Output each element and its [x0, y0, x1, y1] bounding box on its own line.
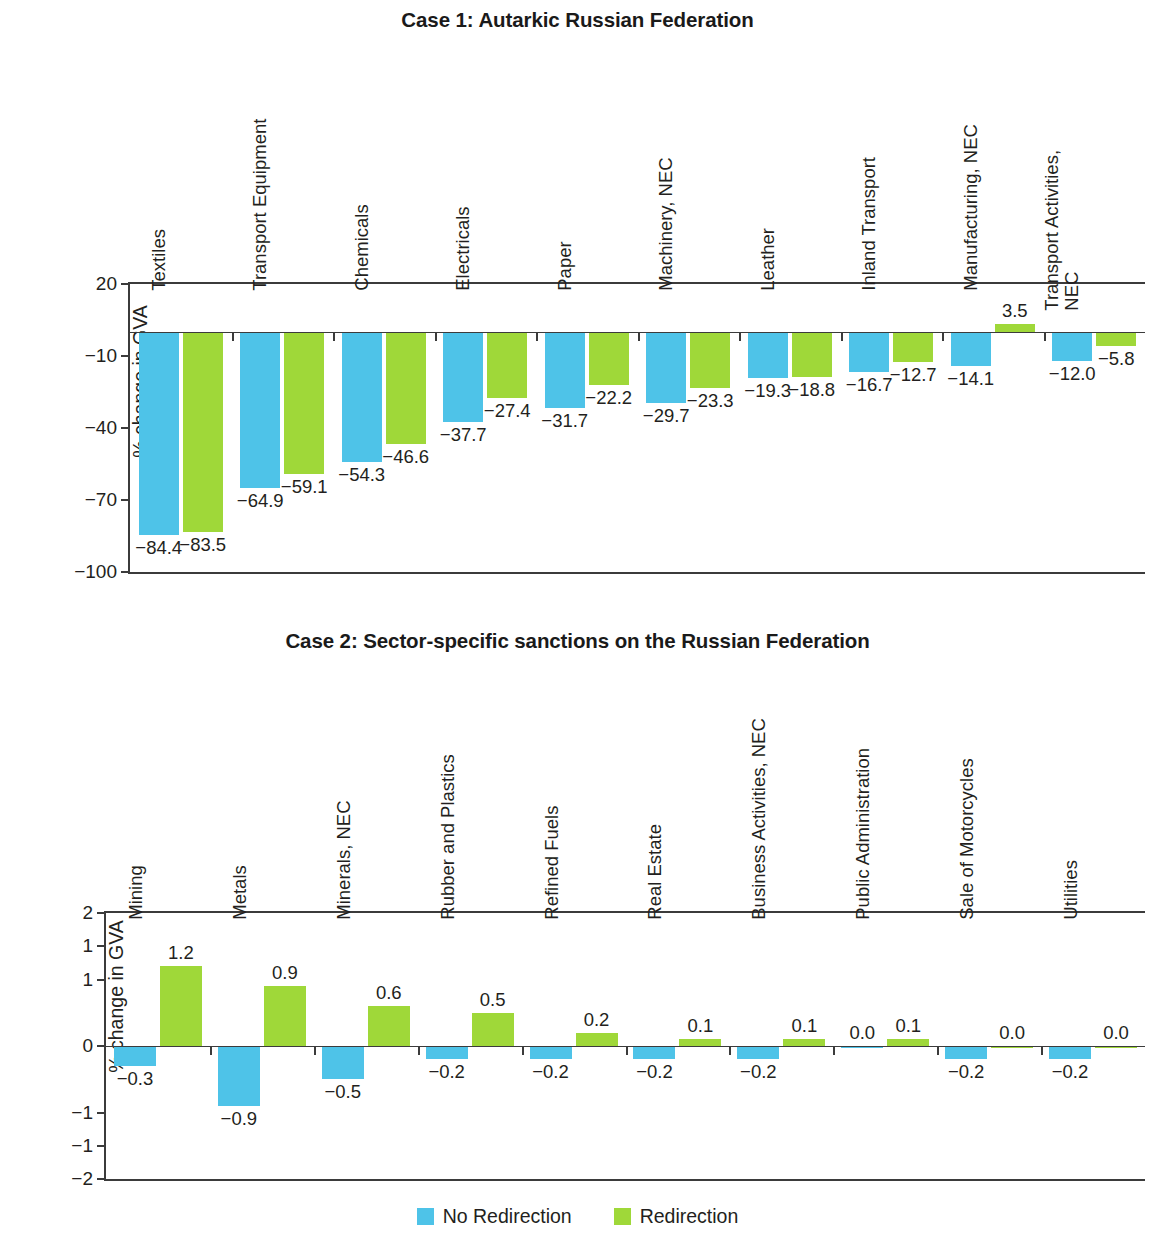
bar-value-label: −0.2 — [1052, 1061, 1089, 1083]
x-tick — [942, 332, 944, 341]
bar-no-redirection — [1049, 1046, 1091, 1059]
x-tick — [536, 332, 538, 341]
y-tick-label: 0 — [82, 1035, 106, 1057]
bar-value-label: 0.0 — [999, 1022, 1025, 1044]
bar-no-redirection — [646, 332, 686, 403]
x-tick — [626, 1046, 628, 1055]
bar-no-redirection — [849, 332, 889, 372]
bar-value-label: −5.8 — [1098, 348, 1135, 370]
bar-value-label: 1.2 — [168, 942, 194, 964]
bar-no-redirection — [737, 1046, 779, 1059]
x-tick — [1041, 1046, 1043, 1055]
x-tick — [314, 1046, 316, 1055]
x-tick — [833, 1046, 835, 1055]
x-tick — [232, 332, 234, 341]
chart-1-title: Case 1: Autarkic Russian Federation — [0, 8, 1155, 32]
bar-no-redirection — [218, 1046, 260, 1106]
category-label: Minerals, NEC — [334, 800, 355, 919]
category-label: Sale of Motorcycles — [957, 758, 978, 919]
bar-value-label: 0.1 — [895, 1015, 921, 1037]
bar-redirection — [679, 1039, 721, 1046]
legend-label-no-redirection: No Redirection — [443, 1205, 572, 1228]
bar-no-redirection — [114, 1046, 156, 1066]
bar-value-label: −54.3 — [338, 464, 385, 486]
x-tick — [333, 332, 335, 341]
y-tick-label: −100 — [74, 561, 130, 583]
category-label: Textiles — [149, 229, 170, 291]
bar-value-label: 0.9 — [272, 962, 298, 984]
bar-redirection — [893, 332, 933, 362]
bar-value-label: 0.0 — [849, 1022, 875, 1044]
bar-value-label: −64.9 — [237, 490, 284, 512]
bar-redirection — [472, 1013, 514, 1046]
bar-no-redirection — [945, 1046, 987, 1059]
bar-redirection — [576, 1033, 618, 1046]
bar-value-label: −0.5 — [324, 1081, 361, 1103]
legend-item-redirection: Redirection — [614, 1205, 739, 1228]
category-label: Leather — [758, 228, 779, 291]
chart-2-title: Case 2: Sector-specific sanctions on the… — [0, 629, 1155, 653]
x-tick — [638, 332, 640, 341]
bar-value-label: −12.7 — [890, 364, 937, 386]
bar-value-label: −0.2 — [428, 1061, 465, 1083]
legend-swatch-redirection — [614, 1208, 631, 1225]
bar-no-redirection — [748, 332, 788, 378]
y-tick-label: 1 — [82, 969, 106, 991]
bar-no-redirection — [545, 332, 585, 408]
bar-redirection — [183, 332, 223, 532]
category-label: Public Administration — [854, 748, 875, 920]
y-tick-label: 20 — [96, 273, 130, 295]
category-label: Paper — [555, 241, 576, 290]
x-tick — [522, 1046, 524, 1055]
bar-value-label: −46.6 — [382, 446, 429, 468]
bar-redirection — [690, 332, 730, 388]
bar-value-label: 0.5 — [480, 989, 506, 1011]
bar-value-label: 0.6 — [376, 982, 402, 1004]
legend-label-redirection: Redirection — [640, 1205, 739, 1228]
bar-value-label: −84.4 — [135, 537, 182, 559]
bar-value-label: −12.0 — [1049, 363, 1096, 385]
bar-value-label: −83.5 — [179, 534, 226, 556]
category-label: Refined Fuels — [542, 806, 563, 920]
bar-redirection — [487, 332, 527, 398]
y-tick-label: −1 — [71, 1102, 106, 1124]
category-label: Inland Transport — [860, 157, 881, 291]
bar-value-label: −0.2 — [740, 1061, 777, 1083]
bar-value-label: −0.2 — [948, 1061, 985, 1083]
chart-2-plot-area: % change in GVA 2110−1−1−2 −0.31.2−0.90.… — [104, 911, 1145, 1181]
bar-value-label: −23.3 — [687, 390, 734, 412]
bar-value-label: 0.2 — [584, 1009, 610, 1031]
bar-value-label: −29.7 — [643, 405, 690, 427]
category-label: Utilities — [1061, 860, 1082, 920]
bar-redirection — [386, 332, 426, 444]
bar-no-redirection — [443, 332, 483, 422]
bar-value-label: −0.2 — [636, 1061, 673, 1083]
bar-value-label: −22.2 — [585, 387, 632, 409]
x-tick — [418, 1046, 420, 1055]
legend-swatch-no-redirection — [417, 1208, 434, 1225]
x-tick — [435, 332, 437, 341]
bar-value-label: −0.3 — [117, 1068, 154, 1090]
bar-redirection — [264, 986, 306, 1046]
bar-value-label: −18.8 — [788, 379, 835, 401]
category-label: Mining — [126, 865, 147, 920]
x-tick — [729, 1046, 731, 1055]
category-label: Chemicals — [352, 204, 373, 290]
y-tick-label: 1 — [82, 935, 106, 957]
category-label: Manufacturing, NEC — [961, 124, 982, 291]
y-tick-label: −70 — [85, 489, 130, 511]
x-tick — [739, 332, 741, 341]
zero-baseline — [130, 332, 1145, 333]
bar-redirection — [783, 1039, 825, 1046]
bar-value-label: −0.2 — [532, 1061, 569, 1083]
bar-redirection — [284, 332, 324, 474]
bar-redirection — [887, 1039, 929, 1046]
category-label: Transport Equipment — [251, 119, 272, 291]
category-label: Real Estate — [646, 824, 667, 920]
bar-value-label: −0.9 — [221, 1108, 258, 1130]
bar-no-redirection — [1052, 332, 1092, 361]
legend-item-no-redirection: No Redirection — [417, 1205, 572, 1228]
category-label: Rubber and Plastics — [438, 754, 459, 920]
bar-value-label: −37.7 — [440, 424, 487, 446]
bar-value-label: 3.5 — [1002, 300, 1028, 322]
